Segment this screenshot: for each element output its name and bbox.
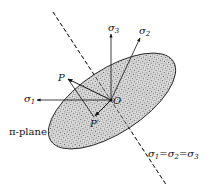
sigma1-label: σ1 (24, 93, 35, 106)
sigma3-label: σ3 (108, 22, 120, 35)
pi-plane-label: π-plane (9, 126, 47, 137)
sigma2-label: σ2 (139, 25, 151, 38)
point-pprime-label: P′ (89, 118, 100, 129)
point-p-label: P (57, 72, 65, 83)
origin-label: O (113, 95, 121, 106)
hydrostatic-axis-label: σ1=σ2=σ3 (148, 148, 199, 161)
pi-plane-diagram: σ3 σ2 σ1 P P′ O π-plane σ1=σ2=σ3 (0, 0, 207, 194)
